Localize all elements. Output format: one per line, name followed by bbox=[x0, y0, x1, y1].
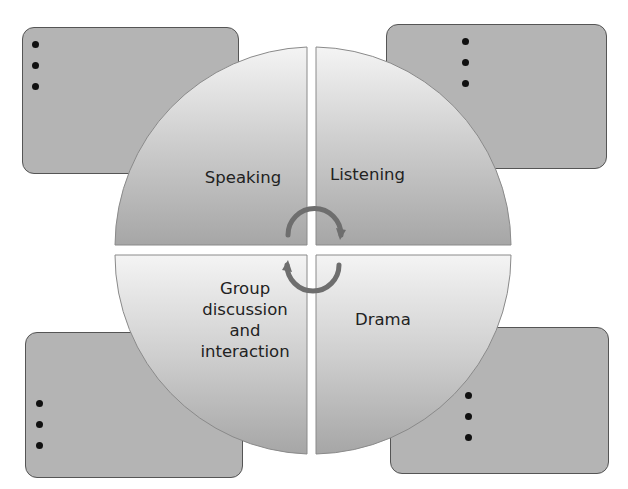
sector-listening bbox=[316, 47, 511, 245]
label-listening: Listening bbox=[330, 164, 430, 185]
label-line: discussion bbox=[185, 299, 305, 320]
label-line: Group bbox=[185, 278, 305, 299]
label-group-discussion: Group discussion and interaction bbox=[185, 278, 305, 362]
sector-drama bbox=[316, 255, 511, 454]
label-speaking: Speaking bbox=[193, 167, 293, 188]
label-drama: Drama bbox=[355, 309, 435, 330]
cycle-diagram bbox=[0, 0, 628, 489]
label-line: and bbox=[185, 320, 305, 341]
sector-speaking bbox=[115, 47, 307, 245]
label-line: interaction bbox=[185, 341, 305, 362]
